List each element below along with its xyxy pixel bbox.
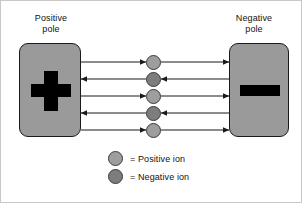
legend-label-negative-ion: = Negative ion xyxy=(130,172,189,182)
ion-4-negative xyxy=(146,106,161,121)
legend-swatch-negative-ion xyxy=(108,169,123,184)
ion-1-positive xyxy=(146,55,161,70)
ion-3-positive xyxy=(146,89,161,104)
legend-swatch-positive-ion xyxy=(108,151,123,166)
ion-2-negative xyxy=(146,72,161,87)
legend-label-positive-ion: = Positive ion xyxy=(130,154,185,164)
legend-item-positive-ion: = Positive ion xyxy=(108,151,185,166)
ion-5-positive xyxy=(146,123,161,138)
diagram-canvas: Positive pole Negative pole xyxy=(0,0,302,203)
legend-item-negative-ion: = Negative ion xyxy=(108,169,189,184)
